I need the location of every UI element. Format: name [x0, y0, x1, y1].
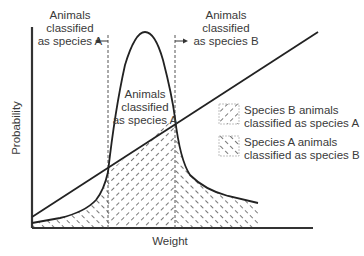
- legend-item-A-as-B: Species A animals classified as species …: [244, 136, 360, 162]
- label-left-region: Animals classified as species A: [30, 9, 110, 48]
- y-axis-label: Probability: [10, 101, 22, 155]
- legend-item-B-as-A: Species B animals classified as species …: [244, 104, 359, 130]
- label-center-region: Animals classified as species A: [106, 88, 184, 127]
- label-right-region: Animals classified as species B: [186, 9, 266, 48]
- x-axis-label: Weight: [140, 235, 200, 248]
- hatch-region-B-as-A: [108, 118, 175, 228]
- legend-swatch-bwd: [219, 136, 239, 156]
- legend-swatch-fwd: [219, 104, 239, 124]
- hatch-region-A-as-B-right: [175, 118, 258, 228]
